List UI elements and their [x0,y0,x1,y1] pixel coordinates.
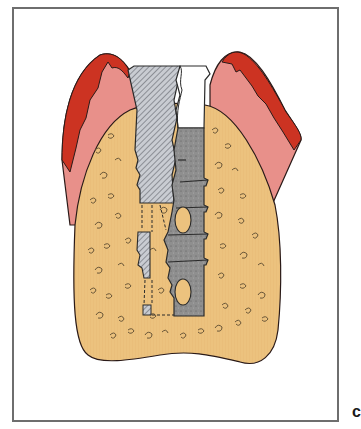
panel-label: c [352,404,361,420]
vent-hole-upper [175,207,191,233]
vent-hole-lower [175,279,191,305]
implant-diagram [0,0,361,429]
